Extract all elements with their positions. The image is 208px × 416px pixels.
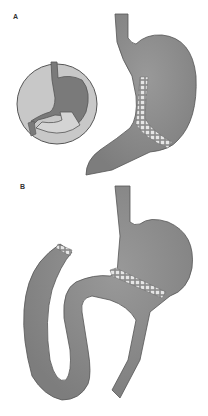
gastric-bypass — [24, 186, 193, 400]
sleeve-stomach — [86, 14, 196, 175]
inset-normal-stomach — [17, 62, 97, 144]
diagram-canvas — [0, 0, 208, 416]
